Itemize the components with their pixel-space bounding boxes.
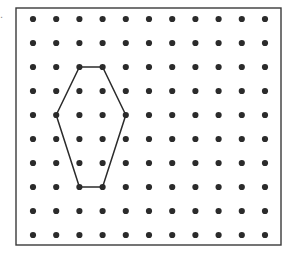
grid-dot [30,160,36,166]
grid-dot [169,88,175,94]
grid-dot [169,64,175,70]
grid-dot [123,16,129,22]
grid-dot [169,160,175,166]
grid-dot [262,208,268,214]
grid-dot [262,184,268,190]
grid-dot [53,64,59,70]
grid-dot [100,16,106,22]
grid-dot [262,40,268,46]
grid-dot [192,160,198,166]
grid-dot [192,112,198,118]
grid-dot [192,64,198,70]
grid-dot [123,160,129,166]
grid-dot [192,208,198,214]
grid-dot [262,64,268,70]
grid-dot [216,88,222,94]
grid-dot [262,232,268,238]
grid-dot [146,40,152,46]
grid-dot [30,232,36,238]
grid-dot [192,40,198,46]
geoboard-canvas [0,0,291,259]
grid-dot [123,232,129,238]
grid-dot [30,112,36,118]
grid-dot [239,136,245,142]
grid-dot [100,88,106,94]
grid-dot [30,64,36,70]
grid-dot [192,136,198,142]
grid-dot [76,40,82,46]
grid-dot [76,88,82,94]
grid-dot [192,184,198,190]
grid-dot [216,112,222,118]
grid-dot [146,232,152,238]
grid-dot [239,160,245,166]
grid-dot [76,208,82,214]
grid-dot [216,16,222,22]
grid-dot [30,136,36,142]
grid-dot [216,184,222,190]
grid-dot [100,136,106,142]
grid-dot [216,64,222,70]
grid-dot [30,208,36,214]
grid-dot [30,40,36,46]
grid-dot [100,112,106,118]
grid-dot [53,160,59,166]
grid-dot [146,88,152,94]
grid-dot [146,208,152,214]
grid-dot [239,64,245,70]
grid-dot [100,40,106,46]
grid-dot [262,160,268,166]
grid-dot [30,16,36,22]
grid-dot [216,160,222,166]
grid-dot [76,160,82,166]
grid-dot [262,112,268,118]
grid-dot [216,136,222,142]
grid-dot [262,88,268,94]
grid-dot [100,208,106,214]
grid-dot [76,112,82,118]
grid-dot [169,136,175,142]
grid-dot [239,232,245,238]
grid-dot [146,184,152,190]
grid-dot [216,208,222,214]
grid-dot [76,16,82,22]
grid-dot [53,88,59,94]
grid-dot [146,160,152,166]
grid-dot [76,136,82,142]
grid-dot [146,136,152,142]
grid-dot [239,88,245,94]
grid-dot [123,40,129,46]
grid-dot [123,88,129,94]
grid-dot [76,232,82,238]
grid-dot [123,136,129,142]
grid-dot [53,40,59,46]
grid-dot [216,40,222,46]
grid-dot [169,208,175,214]
grid-dot [169,112,175,118]
grid-dot [100,160,106,166]
grid-dot [239,184,245,190]
geoboard-figure: . [0,0,291,259]
grid-dot [53,184,59,190]
grid-dot [262,16,268,22]
grid-dot [30,88,36,94]
grid-dot [262,136,268,142]
grid-dot [216,232,222,238]
grid-dot [53,208,59,214]
grid-dot [192,16,198,22]
grid-dot [239,40,245,46]
grid-dot [192,88,198,94]
grid-dot [123,208,129,214]
grid-dot [100,232,106,238]
grid-dot [146,112,152,118]
grid-dot [169,184,175,190]
dot-grid [30,16,268,238]
grid-dot [239,112,245,118]
grid-dot [53,136,59,142]
grid-dot [169,40,175,46]
hexagon-outline [56,67,126,187]
grid-dot [123,64,129,70]
grid-dot [239,16,245,22]
grid-dot [169,232,175,238]
grid-dot [30,184,36,190]
